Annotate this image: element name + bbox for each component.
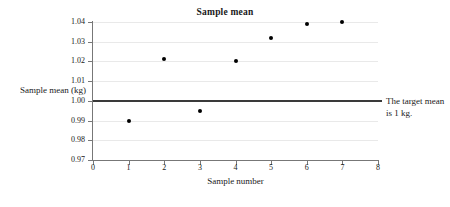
x-tick-label: 2 — [154, 163, 174, 172]
y-axis-title: Sample mean (kg) — [2, 84, 86, 96]
gridline-1.01 — [93, 81, 378, 82]
y-tick-label: 0.97 — [55, 156, 85, 164]
y-tick-label: 1.04 — [55, 18, 85, 26]
x-tick-label: 4 — [226, 163, 246, 172]
target-reference-line — [93, 100, 382, 102]
y-tick-mark — [88, 42, 93, 43]
y-tick-mark — [88, 81, 93, 82]
gridline-0.99 — [93, 121, 378, 122]
x-tick-label: 7 — [332, 163, 352, 172]
x-tick-label: 5 — [261, 163, 281, 172]
x-tick-label: 6 — [297, 163, 317, 172]
data-point — [198, 109, 202, 113]
x-tick-label: 3 — [190, 163, 210, 172]
y-tick-mark — [88, 140, 93, 141]
x-tick-label: 0 — [83, 163, 103, 172]
y-tick-mark — [88, 61, 93, 62]
y-tick-label: 0.98 — [55, 136, 85, 144]
data-point — [234, 59, 238, 63]
gridline-1.04 — [93, 22, 378, 23]
plot-area — [93, 22, 378, 160]
y-tick-label: 0.99 — [55, 117, 85, 125]
chart-title: Sample mean — [0, 7, 450, 17]
y-tick-mark — [88, 22, 93, 23]
y-tick-label: 1.02 — [55, 57, 85, 65]
target-line-annotation: The target mean is 1 kg. — [386, 95, 450, 119]
y-tick-label: 1.00 — [55, 97, 85, 105]
chart-container: Sample mean 1.04 1.03 1.02 1.01 1.00 0.9… — [0, 0, 450, 207]
x-tick-label: 8 — [368, 163, 388, 172]
y-tick-label: 1.03 — [55, 38, 85, 46]
gridline-0.98 — [93, 140, 378, 141]
data-point — [305, 22, 309, 26]
x-tick-label: 1 — [119, 163, 139, 172]
gridline-1.03 — [93, 42, 378, 43]
y-tick-mark — [88, 121, 93, 122]
x-axis-title: Sample number — [93, 176, 378, 186]
data-point — [127, 119, 131, 123]
